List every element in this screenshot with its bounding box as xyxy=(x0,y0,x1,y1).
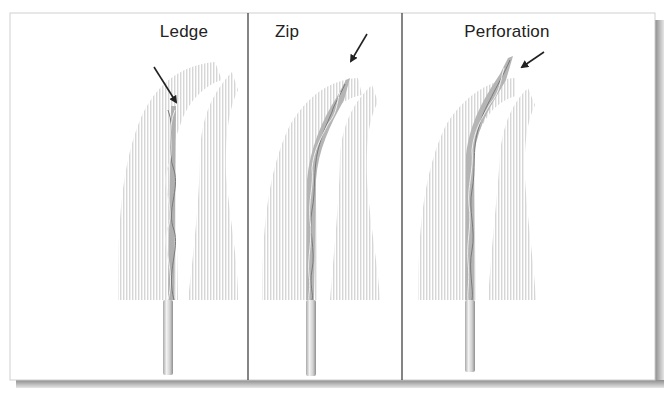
panel-label-perforation: Perforation xyxy=(464,22,549,42)
figure: Ledge Zip Perforation xyxy=(0,0,668,395)
panel-label-zip: Zip xyxy=(275,22,299,42)
panel-label-ledge: Ledge xyxy=(160,22,208,42)
illustration-canvas xyxy=(0,0,668,395)
figure-frame xyxy=(10,13,655,380)
